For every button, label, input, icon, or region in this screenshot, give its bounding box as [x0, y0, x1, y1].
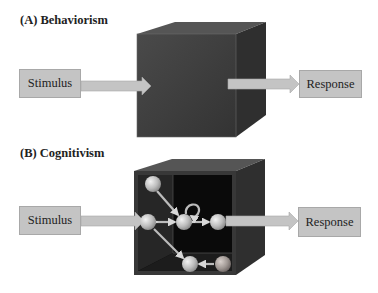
node-6: [215, 256, 231, 272]
stimulus-box-a: Stimulus: [19, 69, 81, 98]
node-5: [182, 256, 198, 272]
response-box-a: Response: [299, 70, 362, 98]
node-1: [145, 176, 161, 192]
node-4: [210, 214, 226, 230]
stimulus-box-b: Stimulus: [19, 206, 81, 235]
panel-b-title: (B) Cognitivism: [20, 146, 104, 161]
node-3: [176, 214, 192, 230]
response-box-b: Response: [298, 207, 361, 237]
cube-a-front: [137, 34, 236, 137]
node-2: [140, 214, 156, 230]
